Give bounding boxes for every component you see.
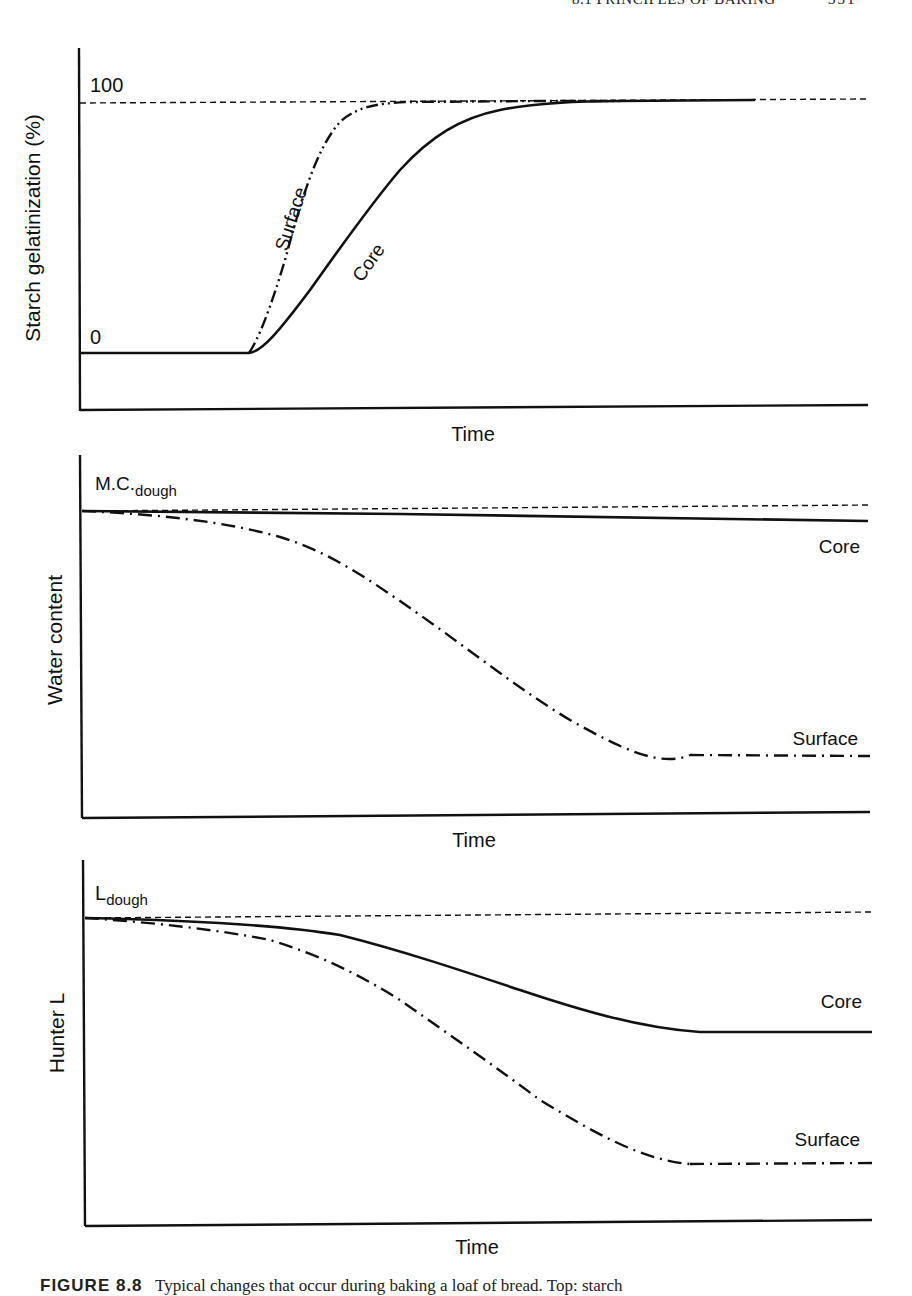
series-label-surface: Surface (795, 1129, 860, 1150)
caption-label: FIGURE 8.8 (40, 1276, 143, 1295)
series-label-core: Core (821, 991, 862, 1012)
tick-label-100: 100 (90, 74, 123, 96)
series-core (85, 918, 872, 1032)
ref-label-mc-dough: M.C.dough (95, 473, 177, 499)
y-axis-label: Water content (43, 575, 66, 705)
panel-water-content: M.C.dough Water content Time Core Surfac… (43, 455, 870, 851)
x-axis-label: Time (451, 423, 495, 445)
x-axis-label: Time (455, 1236, 499, 1258)
reference-line-dough (85, 912, 872, 918)
figure-caption: FIGURE 8.8 Typical changes that occur du… (40, 1276, 900, 1296)
panel-hunter-l: Ldough Hunter L Time Core Surface (45, 860, 872, 1258)
y-axis (80, 455, 82, 818)
series-label-core: Core (819, 536, 860, 557)
series-surface (85, 918, 872, 1164)
tick-label-0: 0 (90, 326, 101, 348)
y-axis (79, 48, 80, 411)
ref-label-l-dough: Ldough (95, 882, 148, 908)
reference-line-dough (82, 505, 870, 511)
y-axis-label: Starch gelatinization (%) (21, 114, 44, 342)
x-axis (80, 405, 868, 410)
series-label-core: Core (348, 240, 389, 286)
x-axis (85, 1220, 872, 1226)
series-core (80, 100, 755, 353)
series-surface (82, 511, 870, 759)
series-core (82, 511, 868, 521)
caption-text: Typical changes that occur during baking… (155, 1276, 622, 1295)
y-axis-label: Hunter L (45, 993, 68, 1074)
series-label-surface: Surface (793, 728, 858, 749)
x-axis-label: Time (452, 829, 496, 851)
x-axis (82, 812, 870, 818)
series-label-surface: Surface (271, 184, 311, 253)
panel-starch-gelatinization: 100 0 Starch gelatinization (%) Time Sur… (21, 48, 868, 445)
y-axis (83, 860, 85, 1226)
